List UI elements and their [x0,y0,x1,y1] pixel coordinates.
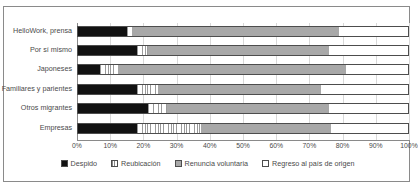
x-tick-label: 70% [303,142,317,149]
x-tick-label: 40% [203,142,217,149]
bar-row: Empresas [77,123,409,134]
bar-segment [167,103,330,114]
bar-segment [321,84,409,95]
x-tick-label: 0% [72,142,82,149]
chart-frame: HelloWork, prensaPor sí mismoJaponesesFa… [3,6,410,182]
bar-segment [132,26,340,37]
legend-swatch-icon [262,160,269,167]
bar-row: Japoneses [77,64,409,75]
bar-row: Familiares y parientes [77,84,409,95]
bar-segment [137,84,159,95]
category-label: HelloWork, prensa [13,25,72,36]
x-tick-label: 50% [236,142,250,149]
bar-segment [77,103,148,114]
bar-segment [158,84,321,95]
bar-segment [329,45,409,56]
x-axis-line [77,140,410,141]
bar-row: Por sí mismo [77,45,409,56]
bar-segment [77,45,137,56]
x-tick-label: 30% [170,142,184,149]
legend-label: Renuncia voluntaria [185,159,249,168]
bar-segment [329,103,409,114]
bar-segment [137,123,202,134]
bar-row: Otros migrantes [77,103,409,114]
x-tick-label: 90% [369,142,383,149]
bar-segment [77,123,137,134]
chart-legend: DespidoReubicaciónRenuncia voluntariaReg… [4,159,411,168]
legend-item[interactable]: Regreso al país de origen [262,159,354,168]
legend-item[interactable]: Despido [61,159,97,168]
x-tick-label: 20% [137,142,151,149]
category-label: Otros migrantes [21,102,72,113]
bar-segment [201,123,330,134]
truncated-title-strip [0,0,415,5]
bar-segment [77,26,127,37]
legend-swatch-icon [111,160,118,167]
category-label: Empresas [40,122,72,133]
bar-segment [339,26,409,37]
bar-segment [118,64,345,75]
category-label: Japoneses [37,63,72,74]
bar-segment [148,103,166,114]
x-tick-label: 60% [269,142,283,149]
legend-swatch-icon [61,160,68,167]
legend-item[interactable]: Reubicación [111,159,161,168]
gridline-100 [409,23,410,140]
bar-row: HelloWork, prensa [77,26,409,37]
bar-segment [77,64,100,75]
category-label: Familiares y parientes [2,83,72,94]
legend-swatch-icon [175,160,182,167]
x-axis-tick-labels: 0%10%20%30%40%50%60%70%80%90%100% [77,142,409,154]
bar-segment [331,123,409,134]
legend-label: Despido [71,159,97,168]
bar-segment [148,45,329,56]
bar-segment [100,64,118,75]
legend-label: Reubicación [121,159,161,168]
x-tick-label: 10% [103,142,117,149]
legend-label: Regreso al país de origen [272,159,354,168]
x-tick-label: 80% [336,142,350,149]
x-tick-label: 100% [400,142,417,149]
bar-segment [346,64,409,75]
bar-segment [137,45,149,56]
legend-item[interactable]: Renuncia voluntaria [175,159,249,168]
category-label: Por sí mismo [30,44,72,55]
bar-segment [77,84,137,95]
plot-area: HelloWork, prensaPor sí mismoJaponesesFa… [77,23,409,140]
